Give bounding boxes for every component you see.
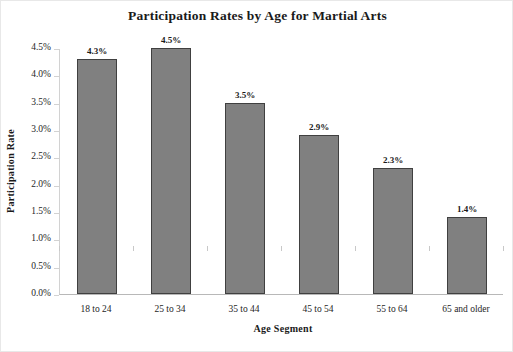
y-tick-label: 4.0% [9,69,51,79]
bar[interactable] [447,217,487,294]
y-tick-label: 0.0% [9,288,51,298]
bar[interactable] [225,103,265,294]
bar-value-label: 4.3% [87,46,107,56]
y-tick-label: 3.0% [9,124,51,134]
bar-value-label: 4.5% [161,35,181,45]
bar-group: 2.9% [282,48,356,294]
x-category-label: 35 to 44 [207,304,281,314]
bar-group: 4.3% [60,48,134,294]
bar-value-label: 3.5% [235,90,255,100]
x-tick-mark [355,246,356,251]
bar[interactable] [373,168,413,294]
x-tick-mark [133,246,134,251]
chart-container: Participation Rates by Age for Martial A… [0,0,513,352]
y-tick-mark [54,295,59,296]
bar-value-label: 2.3% [383,155,403,165]
y-tick-label: 0.5% [9,261,51,271]
x-tick-mark [429,246,430,251]
bar-group: 2.3% [356,48,430,294]
y-tick-label: 4.5% [9,42,51,52]
x-tick-mark [281,246,282,251]
y-tick-label: 1.0% [9,233,51,243]
bar-group: 1.4% [430,48,504,294]
plot-area: 4.3%4.5%3.5%2.9%2.3%1.4% [59,49,503,295]
x-category-label: 45 to 54 [281,304,355,314]
x-category-label: 55 to 64 [355,304,429,314]
y-axis-title: Participation Rate [5,101,19,241]
x-category-label: 25 to 34 [133,304,207,314]
x-tick-mark [207,246,208,251]
y-tick-label: 1.5% [9,206,51,216]
y-tick-label: 3.5% [9,97,51,107]
bar-group: 3.5% [208,48,282,294]
bar-value-label: 1.4% [457,204,477,214]
bar-group: 4.5% [134,48,208,294]
x-tick-mark [503,246,504,251]
x-category-label: 65 and older [429,304,503,314]
x-tick-mark [59,246,60,251]
x-category-label: 18 to 24 [59,304,133,314]
bar[interactable] [77,59,117,294]
y-axis-tick: 0.0% [1,295,513,296]
x-axis-title: Age Segment [59,323,507,334]
y-tick-label: 2.5% [9,151,51,161]
bar[interactable] [151,48,191,294]
bar-value-label: 2.9% [309,122,329,132]
y-tick-label: 2.0% [9,179,51,189]
bar[interactable] [299,135,339,294]
chart-title: Participation Rates by Age for Martial A… [1,8,513,24]
